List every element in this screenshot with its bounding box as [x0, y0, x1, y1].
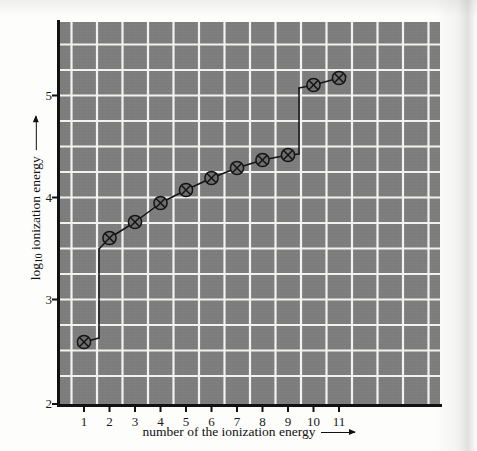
- y-tick-label-2: 2: [38, 397, 52, 410]
- ionization-energy-chart: 5 4 3 2 1 2 3 4 5 6 7 8 9 10 11 log10 io…: [0, 0, 477, 451]
- y-axis-title: log10 ionization energy: [28, 98, 44, 298]
- data-markers: [77, 71, 345, 348]
- data-point-marker: [256, 153, 269, 166]
- y-axis-title-subscript: 10: [34, 253, 44, 263]
- x-axis-title: number of the ionization energy: [58, 424, 440, 440]
- data-point-marker: [103, 231, 116, 244]
- chart-svg: [0, 0, 477, 451]
- y-axis-title-main: log: [28, 263, 43, 280]
- data-point-marker: [179, 183, 192, 196]
- y-axis-title-rest: ionization energy: [28, 156, 43, 253]
- data-point-marker: [128, 215, 141, 228]
- data-point-marker: [281, 148, 294, 161]
- y-axis-arrow-icon: [36, 116, 37, 150]
- data-point-marker: [154, 196, 167, 209]
- data-point-marker: [230, 161, 243, 174]
- x-axis-title-text: number of the ionization energy: [143, 424, 316, 439]
- x-axis-arrow-icon: [321, 432, 355, 433]
- vertical-gridlines: [72, 22, 429, 405]
- data-point-marker: [77, 335, 90, 348]
- data-point-marker: [332, 71, 345, 84]
- scanned-page: 5 4 3 2 1 2 3 4 5 6 7 8 9 10 11 log10 io…: [0, 0, 477, 451]
- data-line: [78, 76, 346, 345]
- data-point-marker: [205, 171, 218, 184]
- data-point-marker: [307, 78, 320, 91]
